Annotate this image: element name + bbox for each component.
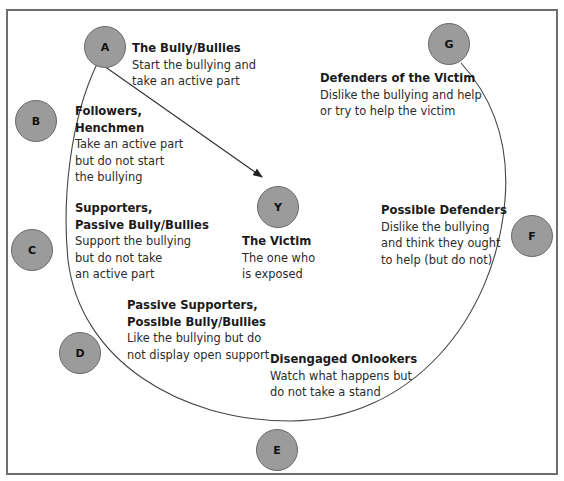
label-victim: The Victim The one who is exposed (242, 233, 315, 283)
label-title: Disengaged Onlookers (270, 351, 417, 368)
label-desc: but do not start (75, 153, 183, 170)
label-desc: do not take a stand (270, 384, 417, 401)
node-y: Y (257, 186, 299, 228)
label-desc: take an active part (132, 73, 256, 90)
label-desc: but do not take (75, 250, 209, 267)
node-g: G (428, 23, 470, 65)
label-desc: Dislike the bullying and help (320, 87, 482, 104)
node-a: A (84, 26, 126, 68)
label-title: Followers, (75, 103, 183, 120)
node-d: D (59, 332, 101, 374)
label-passive-supporters: Passive Supporters, Possible Bully/Bulli… (127, 297, 269, 363)
label-desc: Dislike the bullying (381, 219, 507, 236)
label-possible-defenders: Possible Defenders Dislike the bullying … (381, 202, 507, 268)
label-desc: Watch what happens but (270, 368, 417, 385)
label-title: Henchmen (75, 120, 183, 137)
label-desc: Start the bullying and (132, 57, 256, 74)
label-bully: The Bully/Bullies Start the bullying and… (132, 40, 256, 90)
label-desc: an active part (75, 266, 209, 283)
label-title: Possible Defenders (381, 202, 507, 219)
label-title: Supporters, (75, 200, 209, 217)
label-title: Defenders of the Victim (320, 70, 482, 87)
label-defenders: Defenders of the Victim Dislike the bull… (320, 70, 482, 120)
node-b: B (15, 100, 57, 142)
label-desc: the bullying (75, 169, 183, 186)
label-title: The Bully/Bullies (132, 40, 256, 57)
node-e: E (256, 429, 298, 471)
label-followers: Followers, Henchmen Take an active part … (75, 103, 183, 186)
label-desc: and think they ought (381, 235, 507, 252)
label-title: Possible Bully/Bullies (127, 314, 269, 331)
node-f: F (511, 215, 553, 257)
label-title: Passive Bully/Bullies (75, 217, 209, 234)
label-desc: Support the bullying (75, 233, 209, 250)
label-desc: Like the bullying but do (127, 330, 269, 347)
label-desc: or try to help the victim (320, 103, 482, 120)
label-desc: not display open support (127, 347, 269, 364)
label-desc: The one who (242, 250, 315, 267)
label-desc: Take an active part (75, 136, 183, 153)
label-supporters: Supporters, Passive Bully/Bullies Suppor… (75, 200, 209, 283)
label-desc: to help (but do not) (381, 252, 507, 269)
node-c: C (11, 229, 53, 271)
label-title: Passive Supporters, (127, 297, 269, 314)
label-onlookers: Disengaged Onlookers Watch what happens … (270, 351, 417, 401)
label-title: The Victim (242, 233, 315, 250)
label-desc: is exposed (242, 266, 315, 283)
